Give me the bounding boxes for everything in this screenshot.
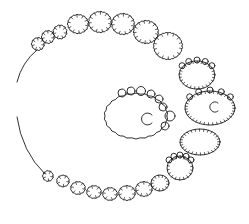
background: [0, 0, 249, 224]
c-shaped-line-drawing: [0, 0, 249, 224]
